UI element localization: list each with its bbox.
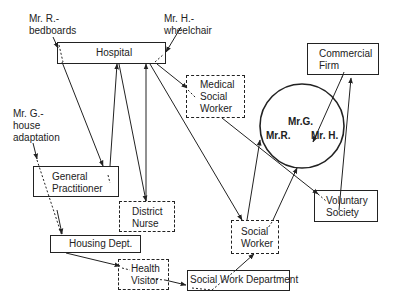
node-label: Commercial Firm [319,48,372,72]
node-hospital: Hospital [57,42,166,64]
client-label-mr-h: Mr. H. [311,130,338,141]
node-label: District Nurse [132,206,163,230]
node-label: General Practitioner [52,171,103,195]
node-social-work-department: Social Work Department [187,270,290,291]
node-label: Health Visitor [131,263,160,287]
client-label-mr-g: Mr.G. [288,116,313,127]
node-medical-social-worker: Medical Social Worker [186,75,245,118]
node-label: Social Work Department [190,274,298,286]
node-label: Housing Dept. [69,238,132,250]
node-label: Hospital [96,47,132,59]
node-commercial-firm: Commercial Firm [307,43,379,75]
node-label: Voluntary Society [326,195,368,219]
annotation-mr-h-wheelchair: Mr. H.- wheelchair [164,13,212,37]
node-district-nurse: District Nurse [119,201,175,232]
annotation-mr-g-house-adaptation: Mr. G.- house adaptation [13,108,60,144]
node-label: Social Worker [241,226,273,250]
node-general-practitioner: General Practitioner [33,166,119,197]
node-label: Medical Social Worker [200,79,234,115]
annotation-mr-r-bedboards: Mr. R.- bedboards [29,13,76,37]
services-diagram: Mr. R.- bedboards Mr. H.- wheelchair Mr.… [0,0,394,305]
node-housing-dept: Housing Dept. [50,235,141,253]
node-social-worker: Social Worker [231,220,279,254]
node-health-visitor: Health Visitor [118,259,169,290]
client-label-mr-r: Mr.R. [266,130,290,141]
node-voluntary-society: Voluntary Society [314,190,378,222]
